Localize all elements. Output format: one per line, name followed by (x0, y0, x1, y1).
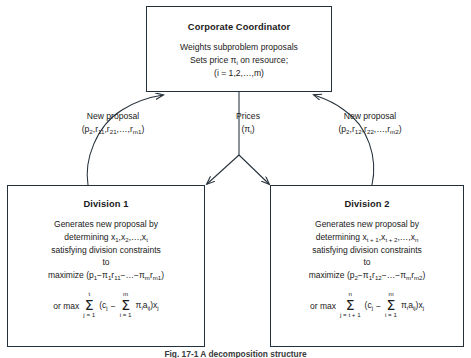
d2-c-sub: j (372, 304, 373, 311)
right-p-sub: 2 (346, 128, 349, 135)
division2-line-4: to (271, 256, 463, 269)
left-p-sub: 2 (89, 128, 92, 135)
left-dots: ,…, (117, 124, 130, 134)
division1-title: Division 1 (8, 199, 204, 209)
d2-det-sub3: n (415, 235, 418, 242)
division1-sum-expression: or max t Σ j = 1 (cj − m Σ i = 1 πiaij)x… (8, 291, 204, 319)
division1-line-4: to (8, 256, 204, 269)
d1-sum-2: m Σ i = 1 (120, 291, 132, 319)
arrow-prices-to-division1 (207, 155, 239, 184)
division2-box: Division 2 Generates new proposal by det… (270, 185, 464, 347)
division1-line-2: determining x1,x2,…,xt (8, 231, 204, 244)
left-proposal-expression: (p2,r11,r21,…,rm1) (48, 123, 178, 136)
d2-max-rm-sub: m2 (414, 274, 423, 281)
sigma-icon: Σ (85, 298, 94, 312)
d1-sum1-bot: j = 1 (83, 312, 95, 319)
d2-sum-prefix: or max (310, 299, 336, 311)
arrow-prices-to-division2 (239, 155, 269, 184)
d1-c-sub: j (106, 304, 107, 311)
d1-sum2-bot: i = 1 (120, 312, 132, 319)
d2-det-pre: determining x (316, 232, 367, 242)
prices-expression: (πi) (218, 123, 278, 136)
d1-max-dots: −…− (121, 270, 139, 280)
right-r3-sub: m2 (390, 128, 399, 135)
division2-line-3: satisfying division constraints (271, 244, 463, 257)
arrow-division2-to-coordinator (314, 95, 374, 185)
right-dots: ,…, (374, 124, 387, 134)
d1-det-dots: ,…,x (129, 232, 146, 242)
d2-max-close: ) (423, 270, 426, 280)
d1-det-pre: determining x (64, 232, 115, 242)
coordinator-line-1: Weights subproblem proposals (147, 41, 331, 54)
d2-det-sub2: t + 2 (385, 235, 397, 242)
edge-label-center: Prices (πi) (218, 110, 278, 137)
d2-max-pre: maximize (p (309, 270, 355, 280)
prices-label: Prices (218, 110, 278, 123)
d2-open: (cj (365, 298, 373, 311)
edge-label-left: New proposal (p2,r11,r21,…,rm1) (48, 110, 178, 137)
right-proposal-expression: (p2,r12,r22,…,rm2) (300, 123, 440, 136)
left-r2-sub: 21 (110, 128, 117, 135)
d2-det-dots: ,…,x (397, 232, 414, 242)
right-r2-sub: 22 (367, 128, 374, 135)
division2-line-1: Generates new proposal by (271, 218, 463, 231)
d2-minus: − (376, 299, 381, 311)
d2-det-sub1: t + 1 (367, 235, 379, 242)
division1-maximize: maximize (p1−π1r11−…−πmrm1) (8, 269, 204, 282)
sigma-icon: Σ (387, 298, 396, 312)
coordinator-title: Corporate Coordinator (147, 22, 331, 32)
d2-max-dots: −…− (382, 270, 400, 280)
arrow-division1-to-coordinator (87, 95, 163, 185)
d1-det-sub3: t (146, 235, 148, 242)
d2-sum-open: (c (365, 300, 372, 310)
d2-sum1-bot: j = t + 1 (340, 312, 361, 319)
coordinator-line-2: Sets price πi on resource; (147, 54, 331, 67)
d2-sum-close: )x (416, 300, 423, 310)
right-proposal-label: New proposal (300, 110, 440, 123)
coordinator-line2-pre: Sets price (190, 55, 231, 65)
left-r1-sub: 11 (98, 128, 104, 135)
d2-tail: πiaij)xj (401, 298, 424, 311)
coordinator-line2-post: on resource; (238, 55, 288, 65)
prices-pi-sub: i (250, 128, 251, 135)
division2-maximize: maximize (p2−π1r12−…−πmrm2) (271, 269, 463, 282)
d2-sum-2: m Σ i = 1 (385, 291, 397, 319)
d1-max-pre: maximize (p (48, 270, 94, 280)
coordinator-line-3: (i = 1,2,…,m) (147, 67, 331, 80)
d1-sum-prefix: or max (53, 299, 79, 311)
d1-max-rm-sub: m1 (153, 274, 162, 281)
d1-open: (cj (99, 298, 107, 311)
figure-canvas: Corporate Coordinator Weights subproblem… (0, 0, 471, 358)
left-proposal-label: New proposal (48, 110, 178, 123)
division2-sum-expression: or max n Σ j = t + 1 (cj − m Σ i = 1 πia… (271, 291, 463, 319)
right-r1-sub: 12 (355, 128, 362, 135)
division1-box: Division 1 Generates new proposal by det… (7, 185, 205, 347)
d1-sum-1: t Σ j = 1 (83, 291, 95, 319)
d2-max-r1-sub: 12 (375, 274, 382, 281)
d1-max-close: ) (161, 270, 164, 280)
d2-sum-1: n Σ j = t + 1 (340, 291, 361, 319)
coordinator-box: Corporate Coordinator Weights subproblem… (146, 6, 332, 92)
d2-sum-x-sub: j (423, 304, 424, 311)
sigma-icon: Σ (346, 298, 355, 312)
edge-label-right: New proposal (p2,r12,r22,…,rm2) (300, 110, 440, 137)
division1-line-1: Generates new proposal by (8, 218, 204, 231)
d1-tail: πiaij)xj (136, 298, 159, 311)
division2-line-2: determining xt + 1,xt + 2,…,xn (271, 231, 463, 244)
division1-line-3: satisfying division constraints (8, 244, 204, 257)
left-r3-sub: m1 (133, 128, 142, 135)
d1-sum-x-sub: j (157, 304, 158, 311)
d2-sum2-bot: i = 1 (385, 312, 397, 319)
figure-caption: Fig. 17-1 A decomposition structure (0, 349, 471, 358)
division2-title: Division 2 (271, 199, 463, 209)
sigma-icon: Σ (121, 298, 130, 312)
d1-minus: − (111, 299, 116, 311)
